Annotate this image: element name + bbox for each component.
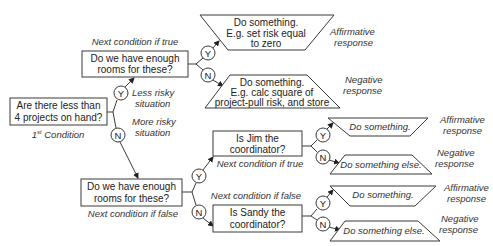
caption-rest: Condition	[42, 129, 85, 140]
arrow-to-top-condition	[125, 78, 134, 87]
less-risky-label: Less risky	[132, 87, 175, 98]
top-condition-line-1: Do we have enough	[91, 53, 180, 64]
connector	[192, 183, 196, 192]
jim-no-action: Do something else. Negative response	[330, 147, 475, 174]
jim-condition: Is Jim the coordinator? Next condition i…	[213, 131, 303, 169]
sandy-yes-action: Do something. Affirmative response	[330, 182, 489, 206]
bottom-condition-line-2: rooms for these?	[94, 193, 169, 204]
jim-line-2: coordinator?	[230, 144, 286, 155]
flowchart: Are there less than 4 projects on hand? …	[0, 0, 493, 246]
no-label: N	[320, 219, 327, 230]
sandy-no-action: Do something else. Negative response	[330, 213, 479, 241]
yes-label: Y	[118, 88, 125, 99]
bottom-condition-line-1: Do we have enough	[87, 181, 176, 192]
arrow-to-action	[327, 190, 333, 197]
connector	[311, 146, 317, 152]
action-line-3: to zero	[251, 38, 282, 49]
arrow-to-jim	[203, 157, 213, 170]
arrow-to-action	[213, 80, 223, 86]
affirmative-response-label: Affirmative	[443, 182, 489, 193]
connector	[113, 112, 116, 128]
sandy-fork: Y N	[302, 190, 340, 231]
next-condition-if-true-caption: Next condition if true	[92, 36, 179, 47]
arrow-to-action	[329, 160, 339, 163]
action-text: Do something.	[349, 121, 410, 132]
connector	[113, 100, 117, 112]
sandy-line-2: coordinator?	[230, 219, 286, 230]
connector	[196, 64, 203, 70]
start-condition-line-1: Are there less than	[17, 100, 101, 111]
action-text: Do something else.	[343, 225, 424, 236]
start-condition-line-2: 4 projects on hand?	[15, 112, 103, 123]
start-fork: Y N Less risky situation More risky situ…	[107, 78, 177, 178]
sandy-condition: Next condition if false Is Sandy the coo…	[211, 190, 302, 232]
no-label: N	[320, 152, 327, 163]
yes-label: Y	[320, 130, 327, 141]
jim-caption: Next condition if true	[217, 158, 304, 169]
top-fork: Y N	[188, 41, 223, 86]
top-condition: Next condition if true Do we have enough…	[82, 36, 188, 77]
jim-line-1: Is Jim the	[236, 133, 279, 144]
jim-yes-action: Do something. Affirmative response	[328, 114, 485, 136]
negative-response-label: Negative	[437, 147, 475, 158]
jim-fork: Y N	[302, 123, 339, 164]
yes-label: Y	[196, 171, 203, 182]
action-text: Do something.	[352, 189, 413, 200]
yes-label: Y	[320, 198, 327, 209]
no-label: N	[205, 70, 212, 81]
start-condition: Are there less than 4 projects on hand? …	[10, 98, 107, 140]
more-risky-label: More risky	[132, 116, 177, 127]
sandy-caption: Next condition if false	[211, 190, 301, 201]
arrow-to-action	[327, 123, 333, 129]
connector	[311, 140, 317, 146]
action-text: Do something else.	[340, 159, 421, 170]
more-risky-label-2: situation	[135, 127, 170, 138]
connector	[311, 209, 317, 216]
negative-response-label: Negative	[441, 213, 479, 224]
affirmative-response-label-2: response	[334, 37, 373, 48]
arrow-to-sandy	[203, 218, 213, 226]
less-risky-label-2: situation	[135, 98, 170, 109]
next-condition-if-false-caption: Next condition if false	[88, 208, 178, 219]
no-label: N	[115, 130, 122, 141]
bottom-fork: Y N	[182, 157, 213, 226]
no-label: N	[196, 207, 203, 218]
connector	[196, 58, 203, 64]
action-line-3: project-pull risk, and store	[215, 97, 330, 108]
affirmative-response-label-2: response	[447, 193, 486, 204]
action-top-yes: Do something. E.g. set risk equal to zer…	[200, 15, 375, 50]
negative-response-label-2: response	[439, 224, 478, 235]
negative-response-label-2: response	[343, 85, 382, 96]
affirmative-response-label: Affirmative	[439, 114, 485, 125]
action-top-no: Do something. E.g. calc square of projec…	[205, 74, 383, 108]
arrow-to-action	[213, 41, 219, 48]
negative-response-label: Negative	[345, 74, 383, 85]
first-condition-caption: 1st Condition	[32, 129, 85, 140]
negative-response-label-2: response	[435, 158, 474, 169]
top-condition-line-2: rooms for these?	[97, 64, 172, 75]
sandy-line-1: Is Sandy the	[230, 207, 286, 218]
affirmative-response-label-2: response	[443, 125, 482, 136]
affirmative-response-label: Affirmative	[329, 26, 375, 37]
yes-label: Y	[205, 48, 212, 59]
bottom-condition: Do we have enough rooms for these? Next …	[81, 179, 182, 219]
connector	[192, 192, 196, 205]
action-line-1: Do something.	[234, 17, 298, 28]
connector	[311, 216, 317, 220]
arrow-to-bottom-condition	[120, 142, 138, 178]
